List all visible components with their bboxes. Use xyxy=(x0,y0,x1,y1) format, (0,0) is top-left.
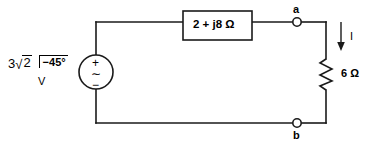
impedance-value-label: 2 + j8 Ω xyxy=(193,19,235,31)
source-angle: −45° xyxy=(39,55,68,68)
terminal-a-label: a xyxy=(293,4,299,15)
current-label: I xyxy=(350,31,353,42)
terminal-node-b xyxy=(293,119,301,127)
source-minus-icon: − xyxy=(92,79,99,91)
circuit-diagram: 3 √ 2 −45° V + ∼ − 2 + j8 Ω 6 Ω I a b xyxy=(0,0,369,149)
source-magnitude-coefficient: 3 xyxy=(8,57,15,70)
terminal-b-label: b xyxy=(293,130,300,141)
circuit-schematic-svg xyxy=(0,0,369,149)
current-arrow xyxy=(337,22,345,51)
radical-operand: 2 xyxy=(22,55,31,69)
radical-sign: √ xyxy=(15,58,22,71)
resistor-zigzag xyxy=(320,59,332,90)
source-phasor-label: 3 √ 2 −45° xyxy=(8,56,68,70)
resistor-value-label: 6 Ω xyxy=(341,68,359,79)
terminal-node-a xyxy=(293,18,301,26)
source-unit-label: V xyxy=(38,76,45,87)
